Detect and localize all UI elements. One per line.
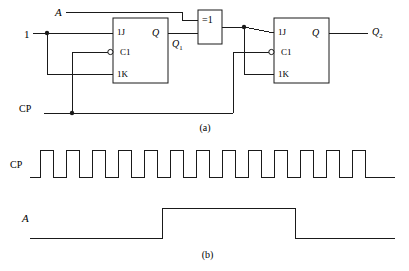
caption-b: (b)	[180, 250, 235, 260]
timing-svg	[0, 0, 409, 271]
timing-label-a: A	[22, 213, 29, 224]
timing-label-cp: CP	[10, 160, 22, 170]
timing-diagram: CP A (b)	[0, 0, 409, 271]
figure-root: A 1 CP =1 1J C1 1K Q Q1 1J C1 1K Q Q2 (a…	[0, 0, 409, 271]
cp-waveform	[30, 150, 395, 177]
a-waveform	[30, 208, 395, 238]
